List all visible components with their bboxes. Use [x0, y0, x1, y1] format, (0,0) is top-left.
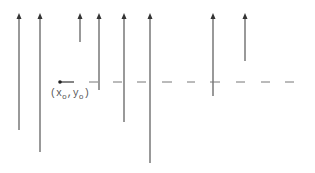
- vector-diagram: (xo,yo): [0, 0, 315, 173]
- origin-label: (xo,yo): [50, 88, 90, 101]
- arrowhead-icon: [17, 13, 22, 19]
- arrowhead-icon: [243, 13, 248, 19]
- arrowhead-icon: [148, 13, 153, 19]
- arrowheads: [17, 13, 248, 19]
- arrowhead-icon: [38, 13, 43, 19]
- arrowhead-icon: [122, 13, 127, 19]
- arrowhead-icon: [78, 13, 83, 19]
- arrowhead-icon: [211, 13, 216, 19]
- arrowhead-icon: [97, 13, 102, 19]
- origin-point: [58, 80, 62, 84]
